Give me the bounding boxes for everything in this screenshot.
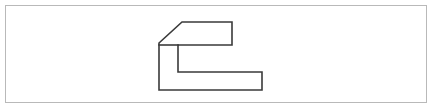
figure-svg xyxy=(0,0,433,110)
drawing-canvas xyxy=(0,0,433,110)
canvas-background xyxy=(0,0,433,110)
